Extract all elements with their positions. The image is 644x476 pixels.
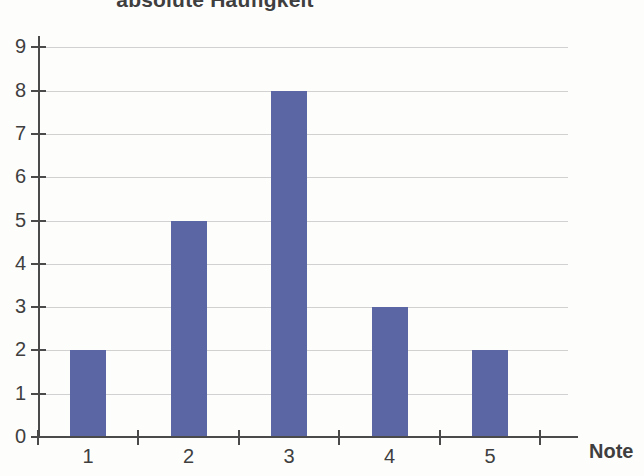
x-axis-tick-label: 1 — [68, 446, 108, 466]
x-axis-tick-label: 2 — [169, 446, 209, 466]
y-axis-tick-label: 5 — [0, 210, 26, 230]
x-axis-tick — [439, 430, 441, 445]
y-axis-tick — [31, 349, 46, 351]
y-axis-tick-label: 7 — [0, 123, 26, 143]
bar — [70, 350, 106, 437]
plot-area — [38, 42, 568, 437]
y-axis-tick-label: 4 — [0, 253, 26, 273]
x-axis-tick — [37, 430, 39, 445]
x-axis-tick-label: 3 — [269, 446, 309, 466]
y-axis-tick — [31, 306, 46, 308]
bar — [372, 307, 408, 437]
y-axis-tick — [31, 133, 46, 135]
y-axis-tick — [31, 263, 46, 265]
y-axis-tick-label: 1 — [0, 383, 26, 403]
x-axis-tick — [238, 430, 240, 445]
y-axis-tick — [31, 220, 46, 222]
chart-title: absolute Häufigkeit — [0, 0, 430, 12]
y-axis-tick-label: 3 — [0, 296, 26, 316]
y-axis-tick — [31, 90, 46, 92]
x-axis-tick-label: 4 — [370, 446, 410, 466]
x-axis-line — [38, 436, 578, 438]
y-axis-tick — [31, 46, 46, 48]
x-axis-tick — [137, 430, 139, 445]
gridline — [38, 47, 568, 48]
y-axis-line — [38, 36, 40, 438]
chart-screenshot: absolute Häufigkeit 0123456789 12345 Not… — [0, 0, 644, 476]
y-axis-tick-label: 8 — [0, 80, 26, 100]
y-axis-tick-label: 0 — [0, 426, 26, 446]
y-axis-tick — [31, 176, 46, 178]
x-axis-tick-label: 5 — [470, 446, 510, 466]
y-axis-tick-label: 2 — [0, 339, 26, 359]
bar — [271, 91, 307, 437]
x-axis-tick — [338, 430, 340, 445]
x-axis-tick — [539, 430, 541, 445]
y-axis-tick-label: 9 — [0, 36, 26, 56]
bar — [171, 221, 207, 438]
bar — [472, 350, 508, 437]
y-axis-tick-label: 6 — [0, 166, 26, 186]
y-axis-tick — [31, 393, 46, 395]
x-axis-title: Note — [589, 440, 633, 463]
